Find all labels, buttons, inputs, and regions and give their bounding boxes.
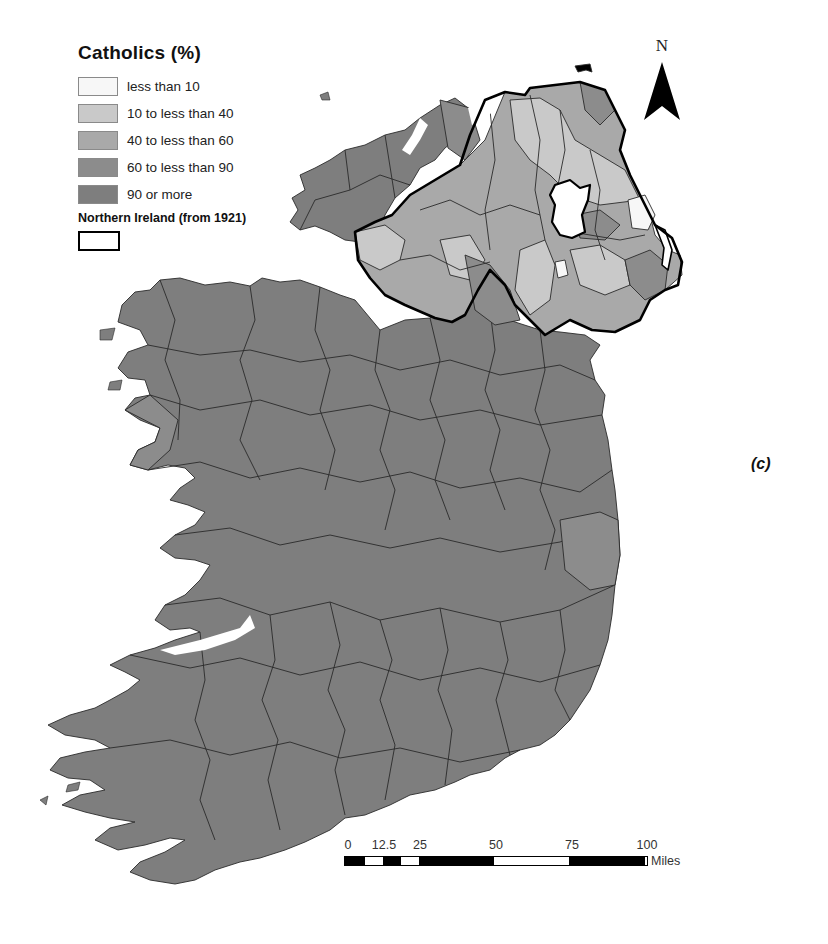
scale-bar-row: Miles	[344, 854, 680, 868]
legend-swatch	[78, 77, 118, 96]
legend-swatch	[78, 104, 118, 123]
legend-item-60-to-90: 60 to less than 90	[78, 154, 308, 181]
legend-swatch	[78, 185, 118, 204]
scale-tick: 12.5	[372, 838, 396, 852]
legend-label: less than 10	[127, 79, 200, 94]
panel-label: (c)	[751, 455, 771, 473]
legend-item-less-than-10: less than 10	[78, 73, 308, 100]
scale-bar: 0 12.5 25 50 75 100 Miles	[344, 838, 680, 868]
island-outline	[48, 275, 620, 884]
legend-ni-boundary-label: Northern Ireland (from 1921)	[78, 211, 308, 225]
legend-ni-boundary-swatch	[78, 231, 120, 251]
scale-ticks: 0 12.5 25 50 75 100	[344, 838, 664, 854]
scale-tick: 75	[565, 838, 579, 852]
legend-swatch	[78, 158, 118, 177]
north-arrow: N	[642, 36, 682, 122]
rathlin-island	[575, 64, 592, 72]
map-legend: Catholics (%) less than 10 10 to less th…	[78, 42, 308, 251]
scale-tick: 100	[637, 838, 658, 852]
legend-swatch	[78, 131, 118, 150]
legend-label: 10 to less than 40	[127, 106, 234, 121]
scale-tick: 50	[489, 838, 503, 852]
lough-neagh	[550, 180, 590, 238]
legend-item-90-or-more: 90 or more	[78, 181, 308, 208]
legend-item-40-to-60: 40 to less than 60	[78, 127, 308, 154]
scale-bar-segments	[344, 856, 648, 866]
north-label: N	[642, 36, 682, 56]
scale-unit: Miles	[651, 854, 680, 868]
legend-label: 90 or more	[127, 187, 192, 202]
northern-ireland	[355, 64, 682, 335]
scale-tick: 0	[345, 838, 352, 852]
legend-label: 40 to less than 60	[127, 133, 234, 148]
scale-tick: 25	[413, 838, 427, 852]
legend-title: Catholics (%)	[78, 42, 308, 64]
legend-item-10-to-40: 10 to less than 40	[78, 100, 308, 127]
north-arrow-icon	[642, 60, 682, 122]
legend-label: 60 to less than 90	[127, 160, 234, 175]
